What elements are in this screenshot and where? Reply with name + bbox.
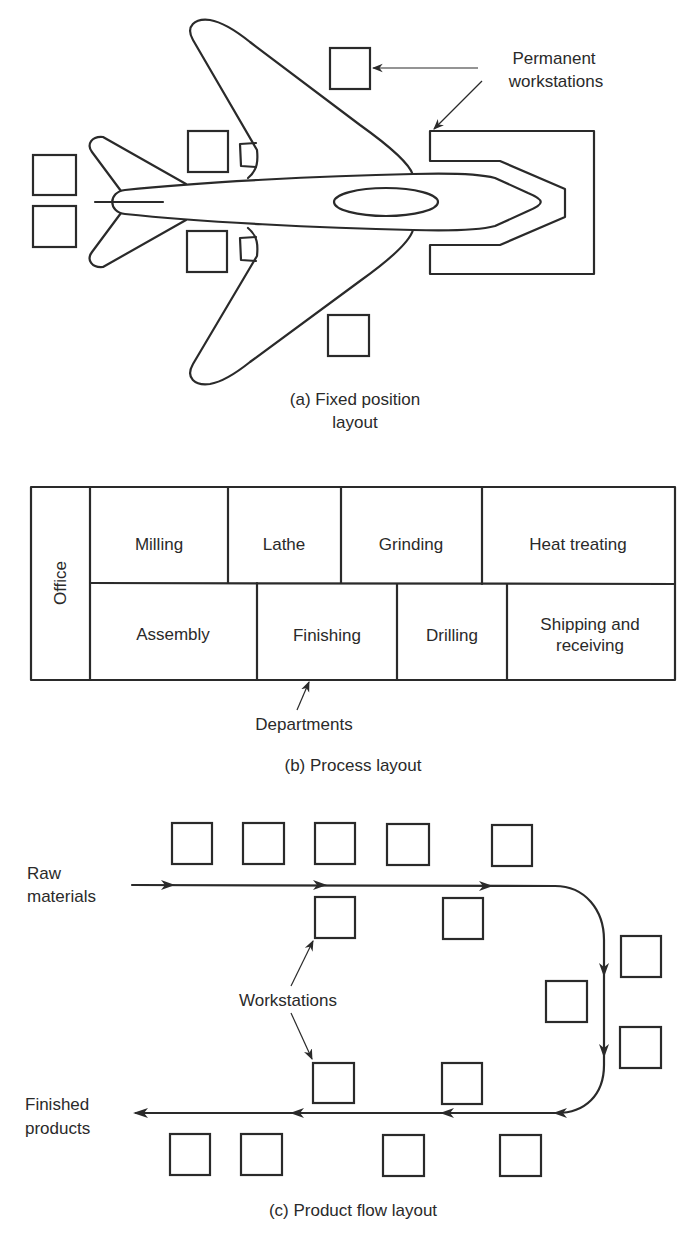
workstation-box [620,1027,661,1068]
department-lathe: Lathe [263,535,306,554]
workstation-box [172,823,212,864]
annotation-arrow [297,682,309,710]
product-flow-path [132,885,604,1113]
aircraft-upper-tailfin [90,137,186,191]
workstation-box [170,1134,210,1175]
aircraft-fuselage [112,174,541,231]
engine-tab-upper [240,143,256,167]
department-shipping-receiving: Shipping and [540,615,639,634]
department-shipping-receiving: receiving [556,636,624,655]
raw-materials-label: materials [27,887,96,906]
workstations-label: Workstations [239,991,337,1010]
workstation-box [443,898,483,939]
department-grinding: Grinding [379,535,443,554]
caption-a: layout [332,413,378,432]
workstation-box [315,897,355,938]
panel-fixed-position: Permanent workstations (a) Fixed positio… [33,20,603,432]
workstation-box [328,315,369,356]
department-drilling: Drilling [426,626,478,645]
department-heat-treating: Heat treating [529,535,626,554]
caption-a: (a) Fixed position [290,390,420,409]
workstation-box [187,231,227,272]
workstation-box [315,823,355,864]
workstation-box [621,936,661,977]
workstation-box [330,48,370,89]
row-divider [90,583,675,584]
workstation-box [546,981,587,1022]
department-finishing: Finishing [293,626,361,645]
workstation-box [241,1134,282,1175]
raw-materials-label: Raw [27,864,62,883]
workstation-box [243,823,284,864]
flow-arrowheads [133,880,609,1118]
annotation-arrow [291,1013,312,1059]
panel-product-flow: Raw materials Finished products Workstat… [25,823,661,1220]
annotation-arrow [434,81,482,129]
workstation-box [383,1135,424,1176]
caption-c: (c) Product flow layout [269,1201,437,1220]
permanent-workstations-label: Permanent [512,49,595,68]
workstation-box [188,131,228,172]
workstation-box [442,1063,482,1104]
workstation-box [492,825,532,866]
workstation-box [33,206,76,247]
department-assembly: Assembly [136,625,210,644]
permanent-workstations-label: workstations [508,72,603,91]
layout-types-diagram: Permanent workstations (a) Fixed positio… [0,0,689,1233]
panel-process-layout: Office Milling Lathe Grinding Heat treat… [31,487,675,775]
finished-products-label: products [25,1119,90,1138]
finished-products-label: Finished [25,1095,89,1114]
department-office: Office [51,561,70,605]
caption-b: (b) Process layout [285,756,422,775]
workstation-box [500,1135,541,1176]
departments-label: Departments [255,715,352,734]
workstation-box [313,1063,354,1103]
aircraft-lower-tailfin [90,213,186,267]
annotation-arrow [291,941,313,986]
engine-tab-lower [240,237,256,261]
department-milling: Milling [135,535,183,554]
workstation-box [387,824,429,865]
workstation-box [33,155,76,195]
